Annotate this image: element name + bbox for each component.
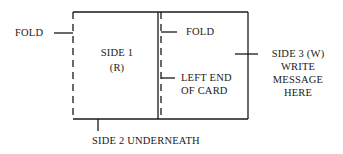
side3-line1: SIDE 3 (W) bbox=[258, 47, 338, 60]
side1-line2: (R) bbox=[92, 61, 142, 74]
side3-line3: MESSAGE bbox=[258, 73, 338, 86]
left-end-line2: OF CARD bbox=[181, 84, 232, 97]
left-end-line1: LEFT END bbox=[181, 71, 232, 84]
side1-label: SIDE 1 (R) bbox=[92, 46, 142, 74]
fold-left-label: FOLD bbox=[15, 26, 43, 39]
side3-label: SIDE 3 (W) WRITE MESSAGE HERE bbox=[258, 47, 338, 99]
side2-label: SIDE 2 UNDERNEATH bbox=[92, 134, 200, 147]
left-end-label: LEFT END OF CARD bbox=[181, 71, 232, 97]
side3-line2: WRITE bbox=[258, 60, 338, 73]
side3-line4: HERE bbox=[258, 86, 338, 99]
side1-line1: SIDE 1 bbox=[92, 46, 142, 59]
fold-inner-label: FOLD bbox=[186, 25, 214, 38]
